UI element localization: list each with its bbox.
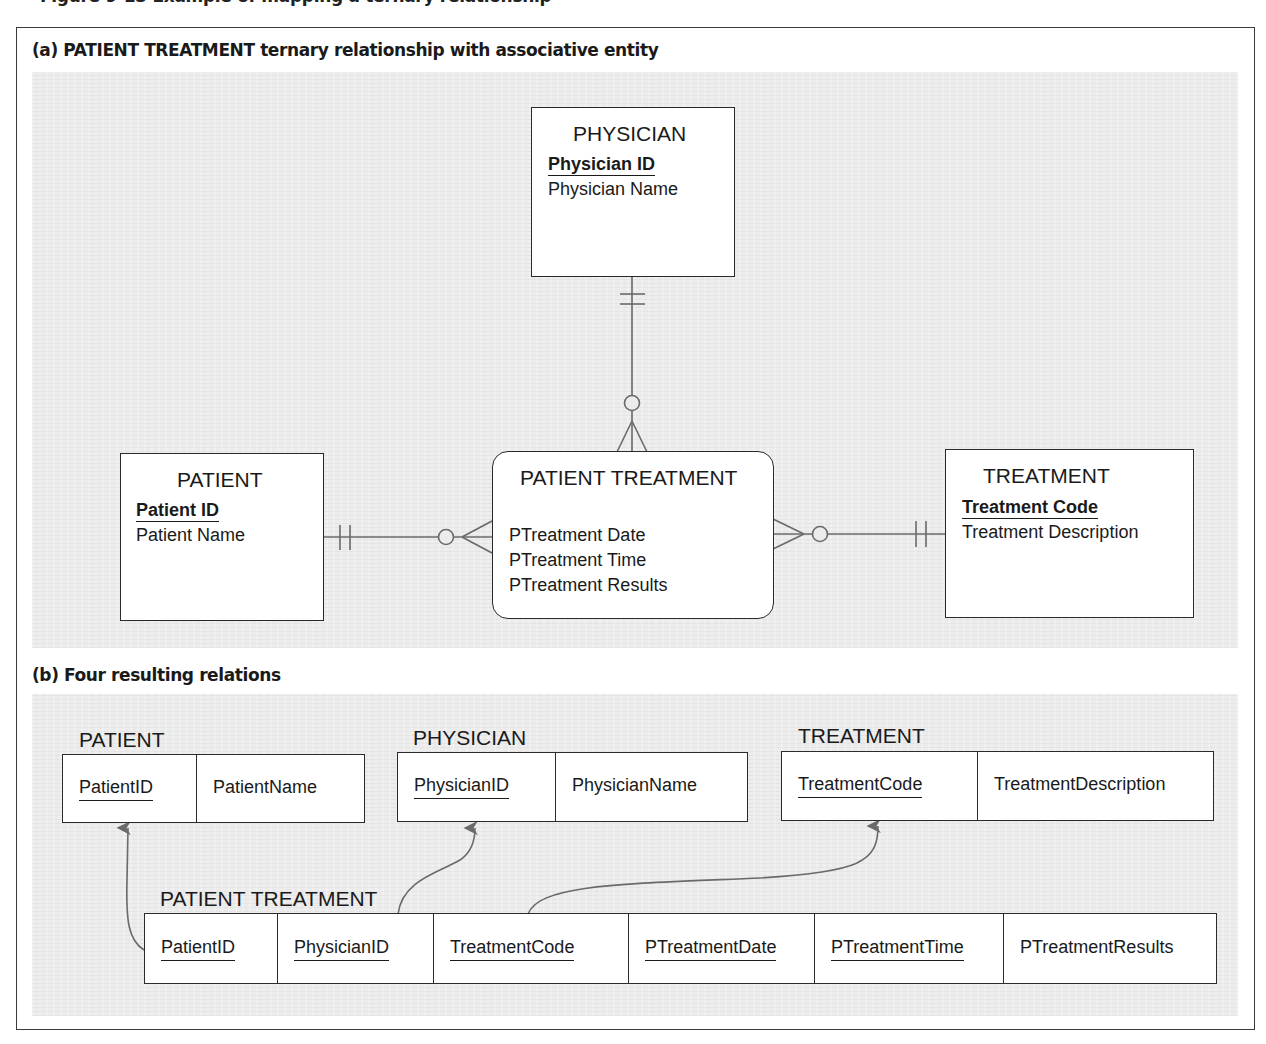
attribute: PTreatment Results xyxy=(509,573,667,598)
clipped-figure-caption: Figure 9-13 Example of mapping a ternary… xyxy=(40,0,740,10)
attribute: Patient Name xyxy=(136,523,245,548)
relation-name-treatment: TREATMENT xyxy=(798,724,925,748)
relation-patient-treatment: PatientID PhysicianID TreatmentCode PTre… xyxy=(144,913,1217,984)
section-b-title: (b) Four resulting relations xyxy=(32,665,281,685)
entity-name: PATIENT xyxy=(177,468,263,492)
key-column: PhysicianID xyxy=(414,775,509,799)
entity-name: PHYSICIAN xyxy=(573,122,686,146)
relation-name-patient: PATIENT xyxy=(79,728,165,752)
entity-treatment: TREATMENT Treatment Code Treatment Descr… xyxy=(945,449,1194,618)
column-cell: PTreatmentResults xyxy=(1004,914,1216,983)
column: PhysicianName xyxy=(572,775,697,799)
column: PatientName xyxy=(213,777,317,801)
key-column: PhysicianID xyxy=(294,937,389,961)
column-cell: TreatmentCode xyxy=(434,914,629,983)
relation-name-physician: PHYSICIAN xyxy=(413,726,526,750)
key-column: TreatmentCode xyxy=(450,937,574,961)
attribute: PTreatment Time xyxy=(509,548,646,573)
attribute: Treatment Description xyxy=(962,520,1138,545)
relation-physician: PhysicianID PhysicianName xyxy=(397,752,748,822)
column: TreatmentDescription xyxy=(994,774,1165,798)
relation-treatment: TreatmentCode TreatmentDescription xyxy=(781,751,1214,821)
entity-name: TREATMENT xyxy=(983,464,1110,488)
entity-name: PATIENT TREATMENT xyxy=(520,466,737,490)
relation-patient: PatientID PatientName xyxy=(62,754,365,823)
attribute: PTreatment Date xyxy=(509,523,645,548)
entity-patient-treatment: PATIENT TREATMENT PTreatment Date PTreat… xyxy=(492,451,774,619)
primary-key: Patient ID xyxy=(136,500,219,522)
entity-physician: PHYSICIAN Physician ID Physician Name xyxy=(531,107,735,277)
relation-name-patient-treatment: PATIENT TREATMENT xyxy=(160,887,377,911)
column-cell: PatientID xyxy=(63,755,197,822)
section-a-title: (a) PATIENT TREATMENT ternary relationsh… xyxy=(32,40,658,60)
key-column: PatientID xyxy=(161,937,235,961)
column: PTreatmentResults xyxy=(1020,937,1173,961)
key-column: PTreatmentDate xyxy=(645,937,776,961)
column-cell: PhysicianID xyxy=(398,753,556,821)
column-cell: PTreatmentTime xyxy=(815,914,1004,983)
key-column: PatientID xyxy=(79,777,153,801)
key-column: PTreatmentTime xyxy=(831,937,964,961)
key-column: TreatmentCode xyxy=(798,774,922,798)
column-cell: TreatmentCode xyxy=(782,752,978,820)
column-cell: TreatmentDescription xyxy=(978,752,1213,820)
column-cell: PatientName xyxy=(197,755,364,822)
column-cell: PhysicianID xyxy=(278,914,434,983)
entity-patient: PATIENT Patient ID Patient Name xyxy=(120,453,324,621)
primary-key: Treatment Code xyxy=(962,497,1098,519)
column-cell: PatientID xyxy=(145,914,278,983)
column-cell: PTreatmentDate xyxy=(629,914,815,983)
column-cell: PhysicianName xyxy=(556,753,747,821)
primary-key: Physician ID xyxy=(548,154,655,176)
attribute: Physician Name xyxy=(548,177,678,202)
